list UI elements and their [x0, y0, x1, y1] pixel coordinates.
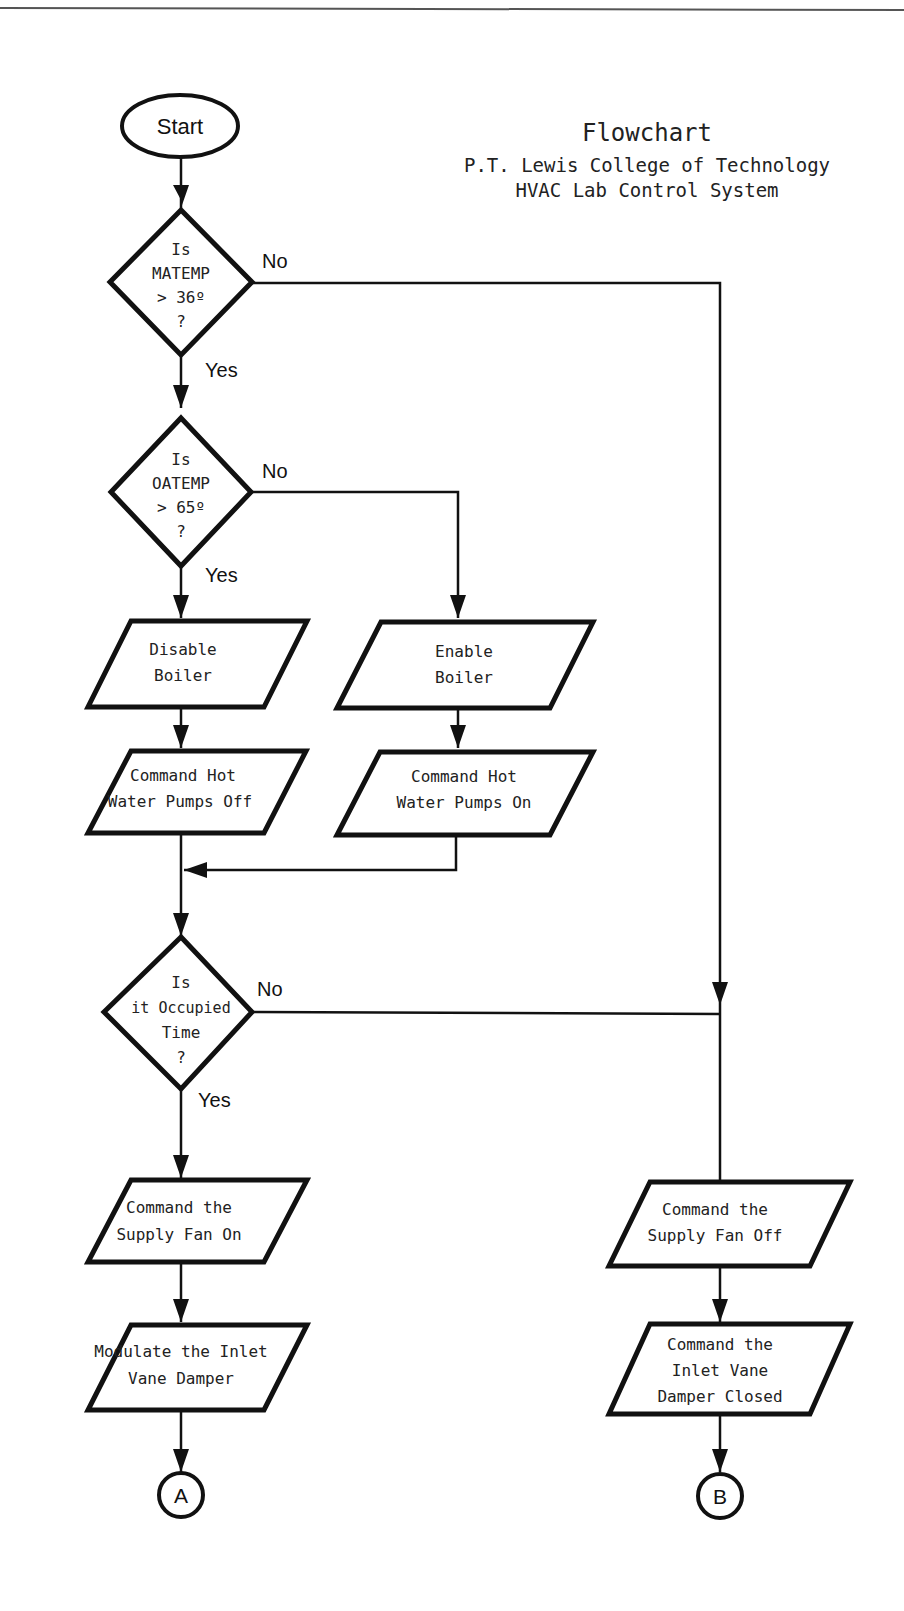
damper-closed-line-2: Inlet Vane	[672, 1361, 768, 1380]
process-modulate-damper: Modulate the Inlet Vane Damper	[88, 1325, 307, 1410]
modulate-damper-line-1: Modulate the Inlet	[94, 1342, 267, 1361]
disable-boiler-line-2: Boiler	[154, 666, 212, 685]
decision-oatemp-line-2: OATEMP	[152, 474, 210, 493]
process-fan-off: Command the Supply Fan Off	[609, 1182, 850, 1266]
edge-label-matemp-no: No	[262, 250, 288, 272]
decision-occupied-line-1: Is	[171, 973, 190, 992]
connector-a: A	[159, 1473, 203, 1517]
process-damper-closed: Command the Inlet Vane Damper Closed	[609, 1324, 850, 1414]
damper-closed-line-3: Damper Closed	[657, 1387, 782, 1406]
decision-occupied: Is it Occupied Time ?	[104, 937, 252, 1089]
diagram-subtitle-college: P.T. Lewis College of Technology	[464, 154, 830, 176]
diagram-title: Flowchart	[582, 119, 712, 147]
damper-closed-line-1: Command the	[667, 1335, 773, 1354]
top-border	[0, 8, 904, 10]
edge-label-occupied-yes: Yes	[198, 1089, 231, 1111]
start-label: Start	[157, 114, 203, 139]
pumps-on-line-2: Water Pumps On	[397, 793, 532, 812]
decision-oatemp: Is OATEMP > 65º ?	[111, 418, 251, 566]
decision-oatemp-line-1: Is	[171, 450, 190, 469]
start-terminal: Start	[122, 95, 238, 157]
connector-b-label: B	[713, 1485, 727, 1508]
process-pumps-off: Command Hot Water Pumps Off	[88, 751, 306, 833]
pumps-off-line-2: Water Pumps Off	[108, 792, 253, 811]
enable-boiler-line-2: Boiler	[435, 668, 493, 687]
decision-matemp-line-3: > 36º	[157, 288, 205, 307]
connector-b: B	[698, 1474, 742, 1518]
modulate-damper-line-2: Vane Damper	[128, 1369, 234, 1388]
decision-occupied-line-4: ?	[176, 1048, 186, 1067]
disable-boiler-line-1: Disable	[149, 640, 216, 659]
decision-occupied-line-3: Time	[162, 1023, 201, 1042]
pumps-on-line-1: Command Hot	[411, 767, 517, 786]
fan-on-line-1: Command the	[126, 1198, 232, 1217]
edge-label-oatemp-no: No	[262, 460, 288, 482]
edge-label-occupied-no: No	[257, 978, 283, 1000]
fan-off-line-1: Command the	[662, 1200, 768, 1219]
process-pumps-on: Command Hot Water Pumps On	[337, 752, 593, 835]
diagram-subtitle-system: HVAC Lab Control System	[515, 179, 778, 201]
decision-matemp-line-1: Is	[171, 240, 190, 259]
decision-matemp: Is MATEMP > 36º ?	[110, 210, 252, 355]
decision-oatemp-line-3: > 65º	[157, 498, 205, 517]
decision-occupied-line-2: it Occupied	[131, 999, 230, 1017]
edge-label-matemp-yes: Yes	[205, 359, 238, 381]
process-enable-boiler: Enable Boiler	[337, 622, 593, 708]
decision-matemp-line-4: ?	[176, 312, 186, 331]
flowchart-canvas: Flowchart P.T. Lewis College of Technolo…	[0, 0, 904, 1611]
edge-label-oatemp-yes: Yes	[205, 564, 238, 586]
fan-on-line-2: Supply Fan On	[116, 1225, 241, 1244]
decision-matemp-line-2: MATEMP	[152, 264, 210, 283]
decision-oatemp-line-4: ?	[176, 522, 186, 541]
pumps-off-line-1: Command Hot	[130, 766, 236, 785]
enable-boiler-line-1: Enable	[435, 642, 493, 661]
process-fan-on: Command the Supply Fan On	[88, 1180, 307, 1262]
connector-a-label: A	[174, 1484, 188, 1507]
process-disable-boiler: Disable Boiler	[88, 621, 307, 707]
fan-off-line-2: Supply Fan Off	[648, 1226, 783, 1245]
